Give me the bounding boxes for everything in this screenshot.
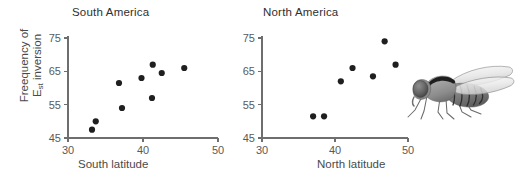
data-point <box>89 127 95 133</box>
data-point <box>370 73 376 79</box>
fly-proboscis <box>413 97 415 106</box>
data-point <box>321 113 327 119</box>
axis-lines <box>68 36 218 138</box>
x-tick-label: 40 <box>137 144 149 156</box>
panel-north-america: North America 45556575304050 North latit… <box>245 0 505 182</box>
data-point <box>310 113 316 119</box>
x-tick-label: 30 <box>62 144 74 156</box>
y-tick-label: 45 <box>49 132 61 144</box>
data-point <box>338 78 344 84</box>
data-point <box>150 62 156 68</box>
data-point <box>138 75 144 81</box>
x-tick-label: 30 <box>256 144 268 156</box>
data-point <box>149 95 155 101</box>
data-point <box>93 118 99 124</box>
fly-eye <box>413 81 428 98</box>
y-tick-label: 65 <box>49 65 61 77</box>
y-tick-label: 75 <box>243 32 255 44</box>
data-point <box>349 65 355 71</box>
x-axis-title-north: North latitude <box>317 158 385 170</box>
x-tick-label: 50 <box>212 144 224 156</box>
plot-area-south-america: 45556575304050 <box>0 0 245 182</box>
x-tick-label: 50 <box>402 144 414 156</box>
x-tick-label: 40 <box>329 144 341 156</box>
x-axis-title-south: South latitude <box>78 158 148 170</box>
y-tick-label: 55 <box>243 99 255 111</box>
data-point <box>382 38 388 44</box>
data-point <box>159 70 165 76</box>
drosophila-fly-illustration <box>397 56 515 122</box>
data-point <box>116 80 122 86</box>
y-tick-label: 45 <box>243 132 255 144</box>
data-point <box>119 105 125 111</box>
y-tick-label: 75 <box>49 32 61 44</box>
y-tick-label: 55 <box>49 99 61 111</box>
axis-lines <box>262 36 408 138</box>
panel-south-america: South America Freequency of Est inversio… <box>0 0 245 182</box>
y-tick-label: 65 <box>243 65 255 77</box>
data-point <box>181 65 187 71</box>
